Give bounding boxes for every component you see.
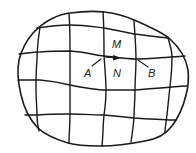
pointer-b — [138, 60, 148, 67]
arrow-head — [113, 55, 121, 61]
label-n: N — [113, 67, 121, 79]
label-b: B — [148, 67, 155, 79]
grid-line-v3 — [102, 12, 106, 146]
curvilinear-grid-diagram: M N A B — [0, 0, 196, 153]
grid-line-h4 — [25, 114, 176, 120]
label-a: A — [83, 67, 91, 79]
grid-line-v4 — [131, 21, 136, 142]
grid-line-h2 — [19, 51, 185, 59]
grid-vertical-lines — [36, 12, 172, 146]
pointer-a — [92, 59, 101, 66]
grid-line-v2 — [69, 13, 70, 143]
grid-horizontal-lines — [18, 25, 187, 120]
label-m: M — [112, 38, 122, 50]
grid-line-h3 — [18, 80, 187, 90]
grid-line-v5 — [165, 38, 172, 133]
